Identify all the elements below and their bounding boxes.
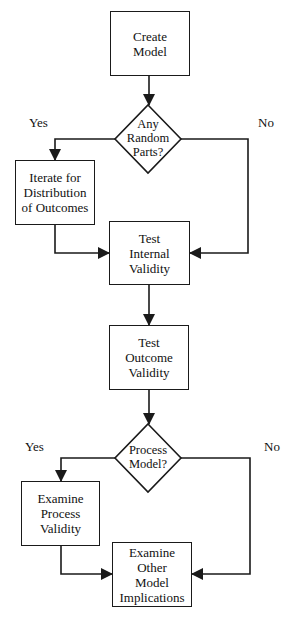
decision-random-parts-label: Any Random Parts? xyxy=(118,117,178,159)
node-test-internal: Test Internal Validity xyxy=(109,221,190,285)
node-iterate: Iterate for Distribution of Outcomes xyxy=(15,160,95,225)
edge-process-yes-to-examine-process xyxy=(61,458,115,481)
node-test-outcome: Test Outcome Validity xyxy=(109,325,189,390)
node-test-internal-label: Test Internal Validity xyxy=(129,231,170,276)
node-create-model: Create Model xyxy=(110,11,190,76)
edge-random-yes-to-iterate xyxy=(55,139,115,160)
node-examine-process: Examine Process Validity xyxy=(21,481,100,546)
edge-random-no-to-test-internal xyxy=(181,139,248,253)
node-examine-other-label: Examine Other Model Implications xyxy=(113,545,191,605)
branch-label-process-yes: Yes xyxy=(25,439,44,455)
node-test-outcome-label: Test Outcome Validity xyxy=(125,335,173,380)
node-create-model-label: Create Model xyxy=(133,29,167,59)
node-examine-process-label: Examine Process Validity xyxy=(37,491,83,536)
branch-label-random-no: No xyxy=(258,115,274,131)
branch-label-process-no: No xyxy=(264,439,280,455)
node-examine-other: Examine Other Model Implications xyxy=(112,542,192,607)
edge-examine-process-to-other xyxy=(61,546,112,574)
node-iterate-label: Iterate for Distribution of Outcomes xyxy=(22,170,89,215)
edge-iterate-to-test-internal xyxy=(55,225,109,253)
branch-label-random-yes: Yes xyxy=(29,115,48,131)
decision-process-model-label: Process Model? xyxy=(118,443,178,471)
